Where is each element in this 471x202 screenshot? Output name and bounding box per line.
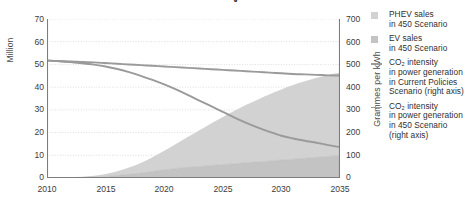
left-tick-label: 20 xyxy=(22,128,44,137)
right-tick-label: 700 xyxy=(346,15,372,24)
co2-current-policies-line-sample xyxy=(371,63,382,64)
x-tick-label: 2020 xyxy=(147,185,181,194)
left-tick-label: 40 xyxy=(22,83,44,92)
right-tick-label: 0 xyxy=(346,173,372,182)
right-tick-label: 200 xyxy=(346,128,372,137)
chart-figure: y Million Grammes per kWh 70 60 50 40 30… xyxy=(0,0,471,202)
x-tick-label: 2025 xyxy=(206,185,240,194)
left-tick-label: 70 xyxy=(22,15,44,24)
chart-title-clipped: y xyxy=(0,0,471,2)
legend-swatch-icon xyxy=(371,10,384,21)
x-tick-label: 2015 xyxy=(89,185,123,194)
left-axis-title: Million xyxy=(5,24,15,76)
legend-label: CO₂ intensity in power generation in Cur… xyxy=(389,58,464,96)
legend-line-icon xyxy=(371,102,384,113)
left-tick-label: 10 xyxy=(22,151,44,160)
legend-item-co2-current-policies: CO₂ intensity in power generation in Cur… xyxy=(371,58,471,96)
right-tick-label: 600 xyxy=(346,38,372,47)
left-tick-label: 0 xyxy=(22,173,44,182)
legend-item-co2-450-scenario: CO₂ intensity in power generation in 450… xyxy=(371,102,471,140)
legend-line-icon xyxy=(371,58,384,69)
left-tick-label: 50 xyxy=(22,60,44,69)
area-series-group xyxy=(47,73,340,178)
legend-line-4: (right axis) xyxy=(389,131,463,141)
legend-line-4: Scenario (right axis) xyxy=(389,87,464,97)
chart-legend: PHEV sales in 450 Scenario EV sales in 4… xyxy=(371,10,471,145)
right-tick-label: 100 xyxy=(346,151,372,160)
ev-color-swatch xyxy=(371,36,378,43)
legend-line-2: in 450 Scenario xyxy=(389,44,447,54)
x-tick-label: 2030 xyxy=(264,185,298,194)
right-tick-label: 500 xyxy=(346,60,372,69)
legend-label: PHEV sales in 450 Scenario xyxy=(389,10,447,29)
left-tick-label: 60 xyxy=(22,38,44,47)
legend-item-phev-sales: PHEV sales in 450 Scenario xyxy=(371,10,471,29)
right-tick-label: 400 xyxy=(346,83,372,92)
plot-canvas xyxy=(47,19,340,178)
x-tick-label: 2035 xyxy=(323,185,357,194)
right-tick-label: 300 xyxy=(346,105,372,114)
x-tick-label: 2010 xyxy=(30,185,64,194)
legend-item-ev-sales: EV sales in 450 Scenario xyxy=(371,34,471,53)
legend-line-2: in 450 Scenario xyxy=(389,20,447,30)
legend-label: EV sales in 450 Scenario xyxy=(389,34,447,53)
plot-area xyxy=(47,19,340,178)
legend-label: CO₂ intensity in power generation in 450… xyxy=(389,102,463,140)
left-tick-label: 30 xyxy=(22,105,44,114)
legend-swatch-icon xyxy=(371,34,384,45)
co2-450-line-sample xyxy=(371,107,382,108)
phev-color-swatch xyxy=(371,12,378,19)
